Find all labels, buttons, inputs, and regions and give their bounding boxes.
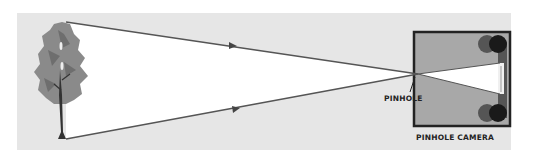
- film-roller-bottom: [489, 104, 507, 122]
- film-roller-top: [489, 35, 507, 53]
- pinhole-label: PINHOLE: [384, 94, 423, 103]
- light-cone: [66, 22, 418, 139]
- pinhole-camera-label: PINHOLE CAMERA: [416, 133, 494, 142]
- pinhole-camera-diagram: [0, 0, 546, 151]
